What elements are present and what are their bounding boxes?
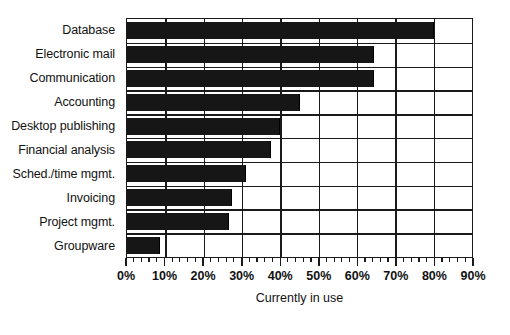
y-axis-label-sched-time-mgmt: Sched./time mgmt. xyxy=(0,162,120,186)
x-tick-minor xyxy=(172,258,173,262)
x-tick-major xyxy=(241,258,243,266)
x-tick-minor xyxy=(372,258,373,262)
x-tick-minor xyxy=(272,258,273,262)
bar-invoicing xyxy=(127,189,232,206)
x-tick-major xyxy=(318,258,320,266)
x-tick-minor xyxy=(457,258,458,262)
x-tick-minor xyxy=(133,258,134,262)
x-tick-label-10pct: 10% xyxy=(152,270,177,283)
bar-row xyxy=(127,19,472,43)
y-axis-label-electronic-mail: Electronic mail xyxy=(0,42,120,66)
bar-row xyxy=(127,162,472,186)
x-tick-minor xyxy=(326,258,327,262)
y-axis-label-financial-analysis: Financial analysis xyxy=(0,138,120,162)
x-tick-minor xyxy=(341,258,342,262)
x-tick-major xyxy=(202,258,204,266)
x-tick-label-60pct: 60% xyxy=(345,270,370,283)
x-tick-minor xyxy=(449,258,450,262)
y-axis-label-communication: Communication xyxy=(0,66,120,90)
x-tick-minor xyxy=(303,258,304,262)
x-tick-minor xyxy=(179,258,180,262)
bar-communication xyxy=(127,70,374,87)
x-tick-minor xyxy=(349,258,350,262)
x-tick-label-30pct: 30% xyxy=(229,270,254,283)
x-tick-minor xyxy=(233,258,234,262)
bar-row xyxy=(127,90,472,114)
x-tick-minor xyxy=(334,258,335,262)
y-axis-label-invoicing: Invoicing xyxy=(0,186,120,210)
x-tick-label-20pct: 20% xyxy=(191,270,216,283)
bar-groupware xyxy=(127,237,160,254)
bar-project-mgmt xyxy=(127,213,229,230)
x-tick-label-90pct: 90% xyxy=(460,270,485,283)
x-tick-minor xyxy=(364,258,365,262)
bar-row xyxy=(127,138,472,162)
x-tick-major xyxy=(357,258,359,266)
y-axis-label-database: Database xyxy=(0,18,120,42)
x-tick-minor xyxy=(218,258,219,262)
x-tick-minor xyxy=(418,258,419,262)
plot-area xyxy=(126,18,473,258)
bar-row xyxy=(127,233,472,257)
x-tick-minor xyxy=(187,258,188,262)
x-tick-minor xyxy=(387,258,388,262)
bar-chart: Database Electronic mail Communication A… xyxy=(0,0,510,335)
bar-row xyxy=(127,114,472,138)
x-tick-label-70pct: 70% xyxy=(383,270,408,283)
x-tick-major xyxy=(164,258,166,266)
bar-row xyxy=(127,67,472,91)
x-tick-minor xyxy=(148,258,149,262)
x-tick-minor xyxy=(156,258,157,262)
x-tick-minor xyxy=(441,258,442,262)
x-tick-minor xyxy=(411,258,412,262)
y-axis-label-groupware: Groupware xyxy=(0,234,120,258)
x-tick-minor xyxy=(380,258,381,262)
x-tick-label-0pct: 0% xyxy=(117,270,135,283)
x-tick-minor xyxy=(141,258,142,262)
x-tick-major xyxy=(280,258,282,266)
y-axis-label-project-mgmt: Project mgmt. xyxy=(0,210,120,234)
x-tick-minor xyxy=(210,258,211,262)
bar-desktop-publishing xyxy=(127,118,280,135)
y-axis-label-desktop-publishing: Desktop publishing xyxy=(0,114,120,138)
bar-series xyxy=(127,19,472,257)
x-tick-label-40pct: 40% xyxy=(268,270,293,283)
bar-financial-analysis xyxy=(127,141,271,158)
bar-row xyxy=(127,209,472,233)
x-tick-minor xyxy=(426,258,427,262)
bar-row xyxy=(127,43,472,67)
x-tick-minor xyxy=(195,258,196,262)
x-tick-major xyxy=(434,258,436,266)
x-tick-minor xyxy=(226,258,227,262)
bar-accounting xyxy=(127,94,300,111)
bar-database xyxy=(127,22,434,39)
y-axis-category-labels: Database Electronic mail Communication A… xyxy=(0,18,120,258)
x-tick-major xyxy=(395,258,397,266)
x-tick-minor xyxy=(264,258,265,262)
x-tick-major xyxy=(125,258,127,266)
x-tick-major xyxy=(472,258,474,266)
x-tick-minor xyxy=(249,258,250,262)
x-tick-label-50pct: 50% xyxy=(306,270,331,283)
x-tick-minor xyxy=(287,258,288,262)
bar-sched-time-mgmt xyxy=(127,165,246,182)
x-axis-ticks xyxy=(126,258,473,268)
bar-electronic-mail xyxy=(127,46,374,63)
x-tick-minor xyxy=(403,258,404,262)
x-axis-title: Currently in use xyxy=(126,292,473,305)
x-tick-minor xyxy=(295,258,296,262)
x-tick-minor xyxy=(256,258,257,262)
x-axis-tick-labels: 0%10%20%30%40%50%60%70%80%90% xyxy=(126,270,473,286)
x-tick-label-80pct: 80% xyxy=(422,270,447,283)
x-tick-minor xyxy=(310,258,311,262)
y-axis-label-accounting: Accounting xyxy=(0,90,120,114)
x-tick-minor xyxy=(465,258,466,262)
bar-row xyxy=(127,186,472,210)
